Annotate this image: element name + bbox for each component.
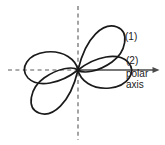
polar-pattern-figure: (1) (2) polar axis — [0, 0, 165, 145]
polar-axis-label-line2: axis — [126, 80, 144, 90]
polar-axis-label-line1: polar — [126, 69, 148, 79]
curve-1-label: (1) — [125, 32, 137, 42]
curve-2-label: (2) — [126, 56, 138, 66]
polar-axis-arrowhead-icon — [153, 67, 160, 73]
